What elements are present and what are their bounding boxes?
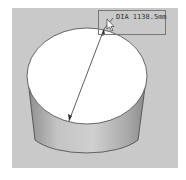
dimension-label: DIA 1138.5mm bbox=[116, 13, 167, 21]
cylinder-top-face bbox=[27, 28, 147, 124]
